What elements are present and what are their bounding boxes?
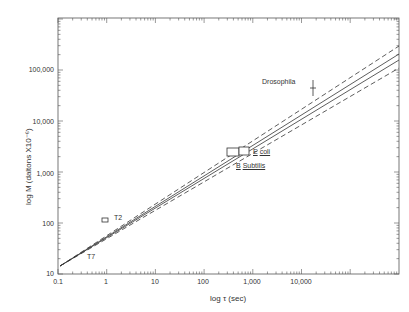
ytick-100000: 100,000 — [4, 66, 54, 73]
label-b-subtilis: B Subtilis — [236, 162, 265, 169]
label-t7: T7 — [87, 253, 95, 260]
data-markers — [102, 80, 316, 222]
fit-line-1 — [60, 54, 399, 266]
ytick-10: 10 — [4, 270, 54, 277]
fit-line-2 — [60, 60, 399, 266]
y-axis-title: log M (daltons X10⁻⁶) — [24, 128, 33, 205]
label-e-coli: E coli — [253, 148, 270, 155]
xtick-1000: 1,000 — [232, 278, 272, 285]
ytick-10000: 10,000 — [4, 118, 54, 125]
chart-canvas — [0, 0, 409, 312]
marker-b-subtilis — [227, 148, 239, 156]
label-t2: T2 — [114, 214, 122, 221]
xtick-100: 100 — [183, 278, 223, 285]
ytick-100: 100 — [4, 220, 54, 227]
marker-e-coli — [239, 147, 249, 155]
x-axis-title: log τ (sec) — [210, 294, 246, 303]
xtick-1: 1 — [86, 278, 126, 285]
xtick-10000: 10,000 — [281, 278, 321, 285]
lower-dashed-line — [60, 68, 399, 266]
label-drosophila: Drosophila — [262, 78, 295, 85]
marker-t2 — [102, 218, 108, 222]
xtick-10: 10 — [135, 278, 175, 285]
xtick-0.1: 0.1 — [38, 278, 78, 285]
